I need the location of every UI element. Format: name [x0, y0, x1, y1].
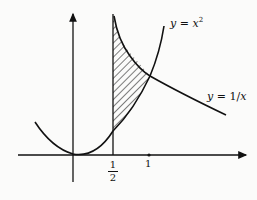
tick-x-one — [147, 153, 150, 156]
label-hyperbola: y = 1/x — [207, 90, 246, 103]
label-parabola: y = x2 — [170, 16, 203, 30]
diagram: y = x2 y = 1/x 1 2 1 — [0, 0, 257, 200]
parabola-curve — [35, 26, 164, 155]
tick-label-half: 1 2 — [108, 160, 118, 183]
tick-label-one: 1 — [145, 158, 151, 169]
